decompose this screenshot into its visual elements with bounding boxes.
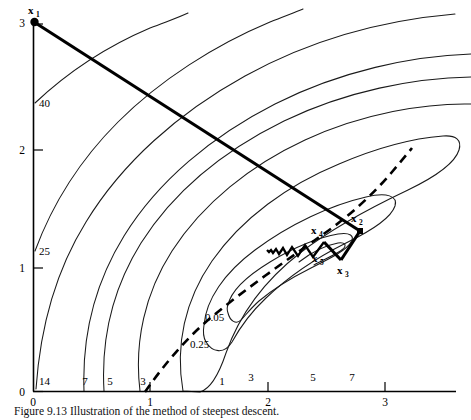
iterate-label-x4: x 4 (311, 224, 323, 239)
contour-label-3-left: 3 (140, 375, 146, 387)
figure-caption-number: Figure 9.13 (14, 405, 67, 417)
axis-y (34, 22, 44, 392)
iterate-label-x5-base: x (312, 252, 318, 264)
start-point-marker (30, 18, 38, 26)
contour-label-3-right: 3 (248, 371, 254, 383)
contour-level-7 (84, 54, 471, 391)
figure-caption: Figure 9.13 Illustration of the method o… (14, 404, 464, 418)
iterate-label-x1-sub: 1 (36, 10, 40, 19)
contour-level-5 (104, 77, 471, 391)
contour-label-25: 25 (39, 245, 51, 257)
iterate-label-x2-base: x (351, 212, 357, 224)
contour-level-0p25 (203, 195, 395, 351)
contour-label-5-left: 5 (107, 375, 113, 387)
iterate-label-x1: x 1 (28, 4, 40, 19)
iterate-label-x5-sub: 5 (320, 258, 324, 267)
contour-label-0p05: 0.05 (205, 311, 225, 323)
contour-level-40 (35, 13, 188, 103)
contour-label-40: 40 (39, 97, 51, 109)
contour-label-1: 1 (219, 375, 225, 387)
y-tick-2: 2 (19, 144, 25, 156)
axis-x (33, 382, 456, 392)
contour-label-14: 14 (39, 375, 51, 387)
contour-labels-right: 3 5 7 (248, 371, 355, 383)
contour-level-14 (36, 14, 455, 389)
iterate-label-x1-base: x (28, 4, 34, 16)
contour-label-5-right: 5 (310, 371, 316, 383)
y-tick-labels: 0 1 2 3 (19, 17, 25, 398)
iterate-label-x3: x 3 (337, 264, 349, 279)
figure-caption-text: Illustration of the method of steepest d… (70, 405, 279, 417)
figure-root: 0 1 2 3 0 1 2 3 40 25 14 7 5 3 1 3 5 7 (0, 0, 471, 420)
y-tick-0: 0 (19, 386, 25, 398)
iterate-label-x3-sub: 3 (345, 270, 349, 279)
iterate-label-x3-base: x (337, 264, 343, 276)
iterate-label-x4-sub: 4 (319, 230, 323, 239)
contour-plot: 0 1 2 3 0 1 2 3 40 25 14 7 5 3 1 3 5 7 (0, 0, 471, 420)
contour-label-7-right: 7 (349, 371, 355, 383)
contour-labels-left: 40 25 14 (39, 97, 51, 387)
contour-level-25 (35, 9, 303, 251)
y-tick-1: 1 (19, 262, 25, 274)
x2-point-marker (357, 228, 363, 234)
iterate-label-x2-sub: 2 (359, 218, 363, 227)
y-tick-3: 3 (19, 17, 25, 29)
contour-label-7-left: 7 (82, 375, 88, 387)
iterate-label-x4-base: x (311, 224, 317, 236)
contour-label-0p25: 0.25 (190, 338, 210, 350)
valley-dashed-line (145, 148, 412, 392)
